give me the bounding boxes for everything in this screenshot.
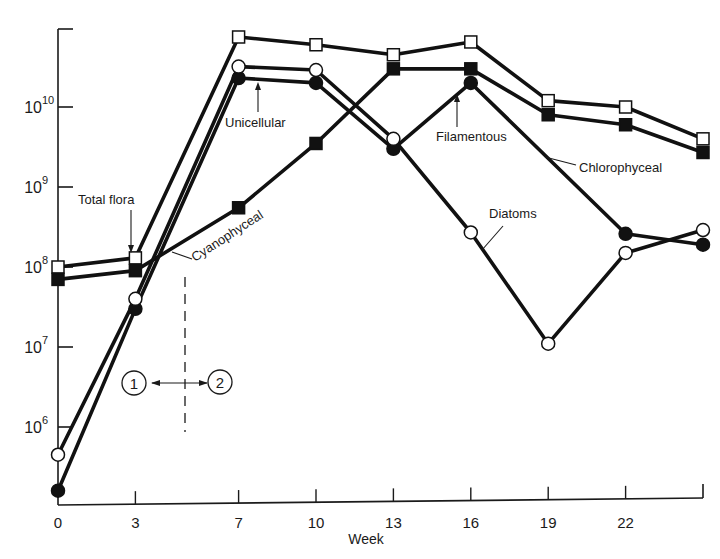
data-point-open-circle [129, 292, 142, 305]
y-tick-label: 10 [24, 419, 42, 436]
x-tick-label: 3 [131, 514, 139, 531]
label-filamentous: Filamentous [436, 129, 507, 144]
data-point-filled-square [387, 63, 399, 75]
data-point-filled-circle [464, 76, 477, 89]
x-tick-label: 7 [234, 514, 242, 531]
y-tick-exponent: 10 [42, 94, 54, 106]
y-tick-label: 10 [24, 259, 42, 276]
y-tick-exponent: 6 [42, 414, 48, 426]
data-point-filled-circle [697, 238, 710, 251]
data-point-filled-square [52, 273, 64, 285]
data-point-open-square [387, 49, 399, 61]
x-axis [58, 498, 703, 505]
y-tick-label: 10 [24, 179, 42, 196]
data-point-filled-circle [52, 484, 65, 497]
data-point-filled-square [620, 119, 632, 131]
arrow-right-icon [199, 380, 208, 386]
data-point-filled-square [697, 146, 709, 158]
data-point-open-square [697, 133, 709, 145]
data-point-open-circle [52, 448, 65, 461]
x-tick-label: 0 [54, 514, 62, 531]
data-point-open-circle [310, 64, 323, 77]
data-point-filled-square [542, 109, 554, 121]
label-unicellular: Unicellular [225, 115, 286, 130]
x-tick-label: 10 [308, 514, 325, 531]
data-point-open-circle [619, 246, 632, 259]
phase-2-label: 2 [216, 374, 224, 391]
phase-1-label: 1 [130, 375, 138, 392]
series-line-total-flora [58, 37, 703, 267]
x-tick-label: 19 [540, 514, 557, 531]
data-point-open-square [52, 261, 64, 273]
data-point-open-circle [232, 60, 245, 73]
series-lines [58, 37, 703, 491]
data-point-filled-square [233, 202, 245, 214]
data-point-open-square [129, 252, 141, 264]
data-point-filled-circle [310, 76, 323, 89]
data-point-open-circle [542, 337, 555, 350]
data-point-open-square [233, 31, 245, 43]
arrow-left-icon [151, 380, 160, 386]
series-line-chlorophyceal [58, 78, 703, 491]
y-tick-exponent: 9 [42, 174, 48, 186]
x-axis-label: Week [348, 531, 385, 547]
label-diatoms: Diatoms [489, 206, 537, 221]
arrow-up-icon [255, 82, 261, 90]
x-tick-label: 16 [462, 514, 479, 531]
x-tick-label: 22 [617, 514, 634, 531]
data-point-open-circle [387, 132, 400, 145]
data-point-open-square [310, 39, 322, 51]
data-point-open-circle [464, 226, 477, 239]
x-ticks: 0371013161922 [54, 486, 634, 531]
y-tick-exponent: 7 [42, 334, 48, 346]
data-point-open-square [620, 101, 632, 113]
label-total-flora: Total flora [78, 192, 135, 207]
x-tick-label: 13 [385, 514, 402, 531]
data-point-filled-circle [619, 227, 632, 240]
data-point-open-square [542, 95, 554, 107]
y-tick-exponent: 8 [42, 254, 48, 266]
data-point-open-square [465, 36, 477, 48]
data-point-open-circle [697, 224, 710, 237]
data-point-filled-square [129, 265, 141, 277]
y-tick-label: 10 [24, 339, 42, 356]
data-point-filled-square [310, 137, 322, 149]
data-point-filled-square [465, 63, 477, 75]
label-chlorophyceal: Chlorophyceal [579, 160, 662, 175]
algae-population-chart: 1061071081091010 0371013161922 1 2 Total… [0, 0, 720, 559]
y-tick-label: 10 [24, 99, 42, 116]
